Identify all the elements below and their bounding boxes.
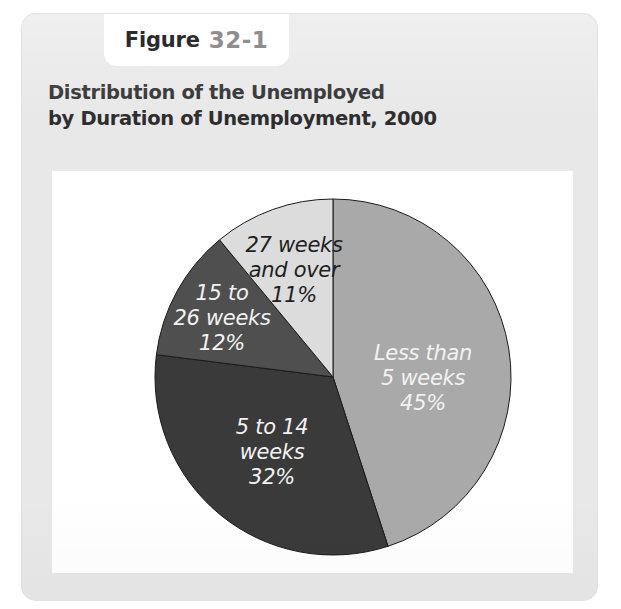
figure-title: Distribution of the Unemployed by Durati… xyxy=(48,80,568,132)
chart-panel: Less than 5 weeks 45% 5 to 14 weeks 32% … xyxy=(52,171,573,573)
pie-label-5-to-14-weeks: 5 to 14 weeks 32% xyxy=(208,415,336,490)
figure-title-line-2: by Duration of Unemployment, 2000 xyxy=(48,106,568,132)
pie-chart: Less than 5 weeks 45% 5 to 14 weeks 32% … xyxy=(153,197,513,557)
figure-card: Figure 32-1 Distribution of the Unemploy… xyxy=(22,14,597,600)
figure-tab-word: Figure xyxy=(125,28,200,52)
pie-label-less-than-5-weeks: Less than 5 weeks 45% xyxy=(358,341,488,416)
figure-title-line-1: Distribution of the Unemployed xyxy=(48,80,568,106)
figure-tab-number: 32-1 xyxy=(209,27,269,53)
figure-number-tab: Figure 32-1 xyxy=(104,14,289,66)
pie-label-27-weeks-and-over: 27 weeks and over 11% xyxy=(231,233,357,308)
